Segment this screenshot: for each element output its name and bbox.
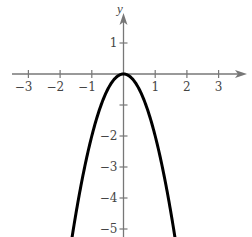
- x-tick-label: 1: [151, 80, 159, 94]
- y-tick-label: 1: [110, 36, 118, 50]
- x-tick-label: −1: [78, 80, 96, 94]
- x-tick-label: 2: [183, 80, 191, 94]
- y-axis-label: y: [115, 1, 123, 16]
- x-tick-label: −3: [15, 80, 33, 94]
- y-tick-label: −2: [100, 129, 118, 143]
- parabola-chart: y −3−2−1123 1−2−3−4−5: [0, 0, 252, 237]
- x-tick-label: −2: [46, 80, 64, 94]
- y-tick-label: −3: [100, 160, 118, 174]
- x-tick-label: 3: [215, 80, 223, 94]
- y-tick-label: −4: [100, 191, 118, 205]
- y-tick-label: −5: [100, 222, 118, 236]
